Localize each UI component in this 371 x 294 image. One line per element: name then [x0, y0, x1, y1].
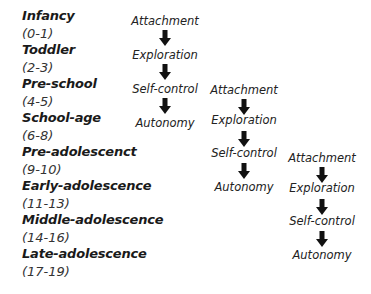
stage-age: (6-8)	[22, 128, 53, 143]
stage-name: Late-adolescence	[22, 246, 147, 261]
stage-name: Pre-school	[22, 76, 97, 91]
step-autonomy: Autonomy	[272, 248, 371, 262]
stage-age: (0-1)	[22, 26, 53, 41]
down-arrow-icon	[236, 131, 252, 147]
stage-name: Early-adolescence	[22, 178, 151, 193]
stage-age: (4-5)	[22, 94, 53, 109]
step-exploration: Exploration	[272, 181, 371, 195]
stage-age: (9-10)	[22, 162, 62, 177]
step-attachment: Attachment	[115, 14, 215, 28]
stage-age: (11-13)	[22, 196, 70, 211]
stage-name: School-age	[22, 110, 101, 125]
stage-age: (17-19)	[22, 264, 70, 279]
step-self-control: Self-control	[272, 214, 371, 228]
down-arrow-icon	[157, 98, 173, 114]
step-exploration: Exploration	[194, 113, 294, 127]
stage-name: Pre-adolescenct	[22, 144, 136, 159]
down-arrow-icon	[314, 199, 330, 215]
stage-name: Infancy	[22, 8, 75, 23]
down-arrow-icon	[157, 30, 173, 46]
stage-age: (2-3)	[22, 60, 53, 75]
step-attachment: Attachment	[272, 151, 371, 165]
step-exploration: Exploration	[115, 48, 215, 62]
down-arrow-icon	[157, 64, 173, 80]
stage-name: Middle-adolescence	[22, 212, 163, 227]
stage-name: Toddler	[22, 42, 75, 57]
down-arrow-icon	[314, 231, 330, 247]
step-attachment: Attachment	[194, 83, 294, 97]
down-arrow-icon	[236, 163, 252, 179]
stage-age: (14-16)	[22, 230, 70, 245]
